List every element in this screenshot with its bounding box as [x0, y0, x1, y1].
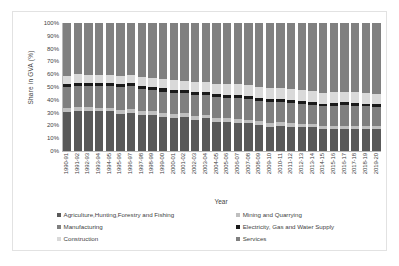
bar-segment[interactable] [63, 112, 71, 151]
bar-segment[interactable] [372, 23, 380, 94]
bar-column[interactable] [255, 23, 263, 151]
bar-segment[interactable] [372, 107, 380, 126]
bar-segment[interactable] [212, 84, 220, 94]
bar-column[interactable] [351, 23, 359, 151]
bar-segment[interactable] [106, 23, 114, 75]
bar-column[interactable] [95, 23, 103, 151]
bar-segment[interactable] [234, 123, 242, 151]
bar-column[interactable] [276, 23, 284, 151]
bar-column[interactable] [308, 23, 316, 151]
bar-segment[interactable] [180, 23, 188, 81]
bar-segment[interactable] [266, 23, 274, 88]
bar-segment[interactable] [84, 86, 92, 106]
bar-segment[interactable] [244, 85, 252, 96]
bar-segment[interactable] [180, 117, 188, 151]
bar-segment[interactable] [266, 127, 274, 151]
legend-item[interactable]: Agriculture,Hunting,Forestry and Fishing [57, 209, 236, 221]
bar-segment[interactable] [116, 76, 124, 84]
bar-segment[interactable] [223, 122, 231, 151]
bar-column[interactable] [319, 23, 327, 151]
bar-segment[interactable] [159, 117, 167, 151]
bar-segment[interactable] [106, 75, 114, 83]
bar-segment[interactable] [127, 113, 135, 151]
bar-segment[interactable] [159, 23, 167, 79]
bar-column[interactable] [159, 23, 167, 151]
bar-segment[interactable] [202, 118, 210, 151]
bar-segment[interactable] [95, 75, 103, 83]
bar-column[interactable] [340, 23, 348, 151]
bar-segment[interactable] [74, 86, 82, 107]
bar-segment[interactable] [127, 75, 135, 83]
bar-segment[interactable] [351, 106, 359, 126]
legend-item[interactable]: Mining and Quarrying [236, 209, 377, 221]
bar-segment[interactable] [127, 86, 135, 108]
bar-segment[interactable] [298, 90, 306, 101]
bar-segment[interactable] [84, 23, 92, 75]
bar-segment[interactable] [308, 91, 316, 102]
bar-segment[interactable] [138, 23, 146, 77]
bar-segment[interactable] [234, 98, 242, 119]
bar-segment[interactable] [159, 79, 167, 89]
bar-segment[interactable] [212, 23, 220, 84]
bar-segment[interactable] [308, 127, 316, 151]
bar-column[interactable] [116, 23, 124, 151]
bar-segment[interactable] [351, 129, 359, 151]
bar-segment[interactable] [287, 127, 295, 151]
bar-column[interactable] [212, 23, 220, 151]
bar-segment[interactable] [330, 23, 338, 92]
bar-segment[interactable] [191, 120, 199, 151]
bar-segment[interactable] [138, 115, 146, 151]
bar-segment[interactable] [63, 87, 71, 108]
bar-column[interactable] [170, 23, 178, 151]
bar-segment[interactable] [148, 115, 156, 151]
bar-segment[interactable] [127, 23, 135, 75]
bar-segment[interactable] [308, 23, 316, 91]
bar-segment[interactable] [116, 114, 124, 151]
bar-segment[interactable] [170, 93, 178, 114]
bar-segment[interactable] [63, 23, 71, 75]
bar-segment[interactable] [266, 88, 274, 99]
bar-segment[interactable] [191, 95, 199, 116]
bar-segment[interactable] [298, 23, 306, 90]
bar-column[interactable] [127, 23, 135, 151]
bar-column[interactable] [372, 23, 380, 151]
bar-segment[interactable] [330, 129, 338, 151]
bar-segment[interactable] [362, 93, 370, 103]
bar-segment[interactable] [287, 23, 295, 89]
bar-segment[interactable] [223, 23, 231, 84]
bar-segment[interactable] [202, 23, 210, 82]
bar-column[interactable] [244, 23, 252, 151]
bar-segment[interactable] [106, 111, 114, 151]
bar-segment[interactable] [74, 111, 82, 151]
bar-segment[interactable] [362, 129, 370, 151]
bar-segment[interactable] [319, 23, 327, 93]
bar-segment[interactable] [255, 87, 263, 98]
bar-segment[interactable] [191, 82, 199, 92]
bar-segment[interactable] [63, 76, 71, 84]
bar-segment[interactable] [276, 102, 284, 122]
bar-segment[interactable] [95, 111, 103, 151]
bar-segment[interactable] [74, 23, 82, 74]
bar-segment[interactable] [95, 86, 103, 107]
bar-segment[interactable] [340, 129, 348, 151]
bar-segment[interactable] [234, 23, 242, 84]
bar-column[interactable] [74, 23, 82, 151]
bar-segment[interactable] [84, 111, 92, 151]
bar-segment[interactable] [276, 88, 284, 99]
bar-segment[interactable] [223, 84, 231, 94]
bar-segment[interactable] [319, 93, 327, 104]
bar-segment[interactable] [148, 90, 156, 111]
bar-segment[interactable] [191, 23, 199, 82]
bar-segment[interactable] [255, 125, 263, 151]
bar-segment[interactable] [180, 81, 188, 91]
bar-segment[interactable] [330, 106, 338, 126]
bar-column[interactable] [191, 23, 199, 151]
bar-column[interactable] [223, 23, 231, 151]
legend-item[interactable]: Construction [57, 233, 236, 245]
bar-column[interactable] [63, 23, 71, 151]
bar-segment[interactable] [319, 129, 327, 151]
bar-segment[interactable] [138, 89, 146, 111]
bar-segment[interactable] [266, 102, 274, 123]
bar-segment[interactable] [202, 82, 210, 92]
bar-segment[interactable] [308, 105, 316, 124]
